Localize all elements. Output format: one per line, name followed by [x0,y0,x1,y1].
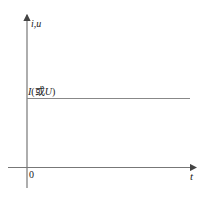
current-voltage-graph: i,u I(或U) 0 t [0,0,205,199]
label-close-paren: ) [52,86,55,98]
label-or: 或 [35,86,45,97]
origin-label: 0 [29,169,34,180]
x-axis-label: t [190,170,194,182]
constant-line-label: I(或U) [27,86,55,98]
y-axis-label: i,u [31,18,41,29]
